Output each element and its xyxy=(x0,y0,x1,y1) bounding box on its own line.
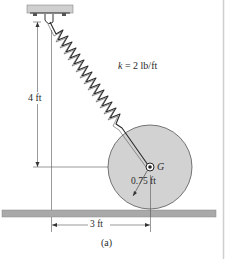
spring-constant-value: = 2 lb/ft xyxy=(125,60,157,71)
spring-constant-label: k = 2 lb/ft xyxy=(118,61,157,71)
center-label: G xyxy=(157,162,164,172)
horizontal-dimension-label: 3 ft xyxy=(90,220,103,230)
ceiling-support xyxy=(27,5,73,24)
height-dimension-label: 4 ft xyxy=(28,93,42,103)
ground xyxy=(2,210,216,217)
spring-wheel-diagram xyxy=(0,0,228,259)
radius-label: 0.75 ft xyxy=(131,177,156,187)
figure-caption: (a) xyxy=(101,238,112,248)
spring-constant-symbol: k xyxy=(118,60,122,71)
center-pin-icon xyxy=(146,163,154,171)
